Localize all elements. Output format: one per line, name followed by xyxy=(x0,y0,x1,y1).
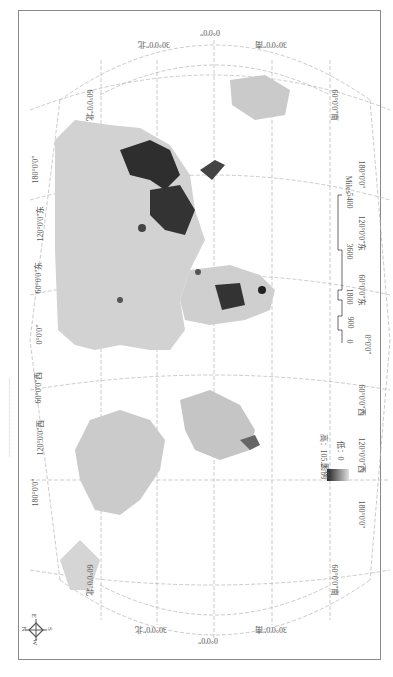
scale-tick-1800: 1800 xyxy=(345,289,354,305)
lon-label-right: 60°0'0"西 xyxy=(357,385,368,417)
lat-label-bottom: 30°0'0"北 xyxy=(135,625,167,636)
lon-label-right: 120°0'0"东 xyxy=(357,216,368,252)
lon-label-right: 180°0'0" xyxy=(357,501,366,529)
compass-n: N xyxy=(20,626,28,631)
lon-label-right: 0°0'0" xyxy=(363,335,372,355)
scale-unit: Miles xyxy=(344,175,353,193)
lon-label-left: 0°0'0" xyxy=(35,325,44,345)
scale-bar xyxy=(338,195,342,343)
lat-label-top: 0°0'0" xyxy=(200,28,220,37)
lon-label-right: 60°0'0"东 xyxy=(357,275,368,307)
lat-label-top: 30°0'0"北 xyxy=(138,40,170,51)
lon-label-left: 60°0'0"东 xyxy=(32,262,43,294)
scale-tick-3600: 3600 xyxy=(345,244,354,260)
compass-icon xyxy=(25,619,47,641)
compass-e: E xyxy=(30,614,38,618)
legend-high: 高：105.2 xyxy=(319,434,330,468)
lon-label-left: 180°0'0" xyxy=(31,156,40,184)
lon-label-left: 60°0'0"西 xyxy=(32,372,43,404)
lat-label-60s-bottom: 60°0'0"南 xyxy=(330,565,341,597)
lat-label-60n-bottom: 60°0'0"北 xyxy=(85,565,96,597)
land-masses xyxy=(55,75,290,590)
lat-label-60n-top: 60°0'0"北 xyxy=(85,90,96,122)
legend-low: 低：0 xyxy=(336,441,347,461)
compass-s: S xyxy=(46,627,54,631)
lon-label-left: 120°0'0"西 xyxy=(34,420,45,456)
lon-label-left: 120°0'0"东 xyxy=(34,206,45,242)
compass-w: W xyxy=(31,639,39,646)
lat-label-bottom: 0°0'0" xyxy=(198,636,218,645)
scale-tick-5400: 5400 xyxy=(345,193,354,209)
lat-label-top: 30°0'0"南 xyxy=(255,40,287,51)
lon-label-left: 180°0'0" xyxy=(31,479,40,507)
scale-tick-0: 0 xyxy=(345,340,354,344)
lon-label-right: 180°0'0" xyxy=(357,161,366,189)
lat-label-bottom: 30°0'0"南 xyxy=(255,625,287,636)
scale-tick-900: 900 xyxy=(346,317,355,329)
lat-label-60s-top: 60°0'0"南 xyxy=(330,90,341,122)
lon-label-right: 120°0'0"西 xyxy=(357,438,368,474)
